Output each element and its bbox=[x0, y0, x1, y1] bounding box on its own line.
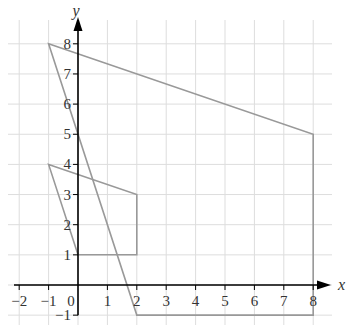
x-tick-label: 4 bbox=[192, 293, 200, 309]
y-tick-label: −1 bbox=[55, 307, 71, 323]
x-axis-arrow-icon bbox=[317, 281, 331, 290]
y-tick-label: 7 bbox=[64, 66, 72, 82]
x-tick-label: 6 bbox=[251, 293, 259, 309]
x-tick-label: 7 bbox=[280, 293, 288, 309]
y-tick-label: 5 bbox=[64, 126, 72, 142]
x-tick-label: 3 bbox=[162, 293, 170, 309]
x-axis-label: x bbox=[337, 276, 345, 293]
coordinate-plane: −2−1012345678−112345678xy bbox=[0, 0, 356, 334]
y-tick-label: 8 bbox=[64, 36, 72, 52]
y-tick-label: 2 bbox=[64, 217, 72, 233]
x-tick-label: 8 bbox=[309, 293, 317, 309]
x-tick-label: 2 bbox=[133, 293, 141, 309]
y-tick-label: 1 bbox=[64, 247, 72, 263]
x-tick-label: 1 bbox=[104, 293, 112, 309]
y-axis-arrow-icon bbox=[74, 17, 83, 31]
y-axis-label: y bbox=[70, 2, 80, 20]
x-tick-label: −2 bbox=[11, 293, 27, 309]
shape-large-quadrilateral bbox=[49, 44, 314, 315]
x-tick-label: 5 bbox=[221, 293, 229, 309]
y-tick-label: 4 bbox=[64, 156, 72, 172]
y-tick-label: 6 bbox=[64, 96, 72, 112]
y-tick-label: 3 bbox=[64, 187, 72, 203]
